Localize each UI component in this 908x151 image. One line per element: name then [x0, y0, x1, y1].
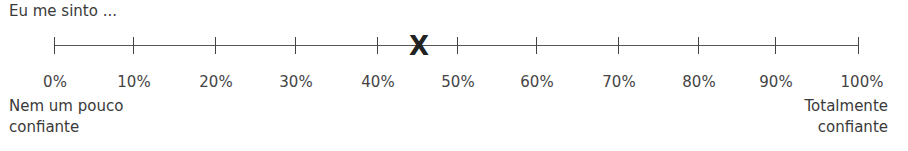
min-anchor-line2: confiante: [9, 117, 123, 138]
tick-90: [775, 37, 776, 54]
tick-80: [698, 37, 699, 54]
tick-0: [54, 37, 55, 54]
tick-label-100: 100%: [841, 73, 884, 91]
min-anchor-label: Nem um pouco confiante: [9, 96, 123, 138]
min-anchor-line1: Nem um pouco: [9, 96, 123, 117]
scale-title: Eu me sinto ...: [9, 2, 117, 20]
tick-30: [295, 37, 296, 54]
tick-label-0: 0%: [43, 73, 67, 91]
tick-10: [133, 37, 134, 54]
selected-value-marker: X: [409, 33, 429, 59]
scale-axis-line: [54, 45, 858, 46]
tick-40: [377, 37, 378, 54]
tick-label-20: 20%: [199, 73, 232, 91]
max-anchor-label: Totalmente confiante: [805, 96, 889, 138]
tick-label-90: 90%: [759, 73, 792, 91]
tick-label-50: 50%: [441, 73, 474, 91]
tick-60: [536, 37, 537, 54]
max-anchor-line1: Totalmente: [805, 96, 889, 117]
max-anchor-line2: confiante: [805, 117, 889, 138]
tick-label-80: 80%: [682, 73, 715, 91]
tick-label-70: 70%: [602, 73, 635, 91]
tick-label-40: 40%: [361, 73, 394, 91]
tick-label-60: 60%: [520, 73, 553, 91]
tick-label-30: 30%: [279, 73, 312, 91]
tick-70: [618, 37, 619, 54]
tick-100: [858, 37, 859, 54]
tick-50: [457, 37, 458, 54]
tick-label-10: 10%: [117, 73, 150, 91]
tick-20: [215, 37, 216, 54]
